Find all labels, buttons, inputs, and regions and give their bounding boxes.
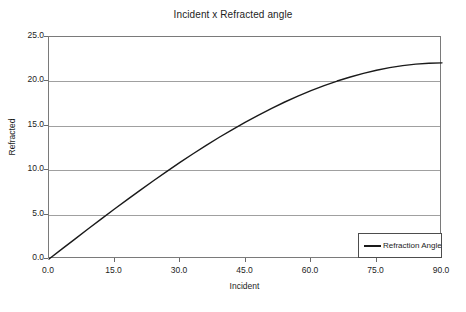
x-tick-label: 45.0	[225, 265, 265, 275]
legend-entry-label: Refraction Angle	[383, 241, 442, 250]
x-tick-label: 0.0	[28, 265, 68, 275]
legend-line-swatch-icon	[364, 245, 381, 247]
x-axis-title: Incident	[48, 281, 441, 291]
y-tick-label: 25.0	[8, 30, 44, 40]
chart-container: Incident x Refracted angle 0.05.010.015.…	[0, 0, 466, 312]
x-tickmark	[179, 258, 180, 262]
y-tick-label: 0.0	[8, 252, 44, 262]
x-axis-tick-labels: 0.015.030.045.060.075.090.0	[48, 265, 441, 277]
x-tick-label: 30.0	[159, 265, 199, 275]
y-tick-label: 5.0	[8, 208, 44, 218]
x-tickmark	[114, 258, 115, 262]
y-tickmark	[44, 258, 48, 259]
x-tick-label: 60.0	[290, 265, 330, 275]
x-tickmark	[310, 258, 311, 262]
x-tick-label: 15.0	[94, 265, 134, 275]
line-series-refraction-angle	[49, 63, 442, 259]
x-tick-label: 75.0	[356, 265, 396, 275]
plot-area	[48, 36, 441, 258]
x-tickmark	[245, 258, 246, 262]
x-tickmark	[376, 258, 377, 262]
y-axis-title: Refracted	[7, 107, 17, 167]
chart-legend: Refraction Angle	[358, 233, 442, 258]
series-layer	[49, 37, 442, 259]
y-tick-label: 20.0	[8, 74, 44, 84]
x-tick-label: 90.0	[421, 265, 461, 275]
chart-title: Incident x Refracted angle	[0, 9, 466, 20]
